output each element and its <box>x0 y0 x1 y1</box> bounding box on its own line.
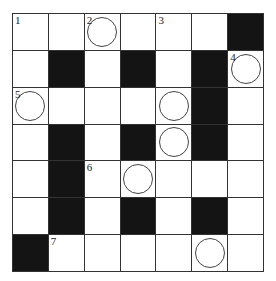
grid-cell[interactable]: 7 <box>49 235 84 271</box>
black-square <box>121 198 156 234</box>
grid-cell[interactable] <box>156 161 191 197</box>
clue-number: 4 <box>230 51 236 63</box>
clue-number: 1 <box>15 14 21 26</box>
grid-cell[interactable] <box>13 198 48 234</box>
grid-cell[interactable]: 3 <box>156 14 191 50</box>
grid-cell[interactable] <box>192 14 227 50</box>
grid-cell[interactable] <box>228 198 263 234</box>
grid-cell[interactable] <box>156 88 191 124</box>
grid-cell[interactable] <box>85 198 120 234</box>
black-square <box>192 51 227 87</box>
grid-cell[interactable] <box>121 161 156 197</box>
grid-cell[interactable]: 4 <box>228 51 263 87</box>
grid-cell[interactable]: 2 <box>85 14 120 50</box>
grid-cell[interactable] <box>228 88 263 124</box>
grid-cell[interactable] <box>192 235 227 271</box>
black-square <box>49 161 84 197</box>
grid-cell[interactable] <box>85 88 120 124</box>
circle-icon <box>159 127 189 157</box>
grid-cell[interactable] <box>121 88 156 124</box>
circle-icon <box>123 164 153 194</box>
crossword-grid: 1234567 <box>12 13 264 272</box>
clue-number: 6 <box>87 161 93 173</box>
grid-cell[interactable] <box>192 161 227 197</box>
grid-cell[interactable] <box>156 125 191 161</box>
black-square <box>13 235 48 271</box>
grid-cell[interactable] <box>13 161 48 197</box>
black-square <box>192 88 227 124</box>
grid-cell[interactable] <box>13 125 48 161</box>
black-square <box>192 125 227 161</box>
clue-number: 2 <box>87 14 93 26</box>
black-square <box>49 125 84 161</box>
black-square <box>121 125 156 161</box>
grid-cell[interactable] <box>121 14 156 50</box>
grid-cell[interactable] <box>228 125 263 161</box>
clue-number: 5 <box>15 88 21 100</box>
grid-cell[interactable]: 6 <box>85 161 120 197</box>
clue-number: 3 <box>158 14 164 26</box>
circle-icon <box>159 91 189 121</box>
black-square <box>49 198 84 234</box>
black-square <box>121 51 156 87</box>
grid-cell[interactable]: 5 <box>13 88 48 124</box>
black-square <box>192 198 227 234</box>
grid-cell[interactable] <box>156 51 191 87</box>
grid-cell[interactable] <box>156 198 191 234</box>
grid-cell[interactable] <box>85 51 120 87</box>
grid-cell[interactable] <box>156 235 191 271</box>
grid-cell[interactable] <box>121 235 156 271</box>
circle-icon <box>195 238 225 268</box>
grid-cell[interactable] <box>228 235 263 271</box>
grid-cell[interactable] <box>49 88 84 124</box>
grid-cell[interactable] <box>49 14 84 50</box>
grid-cell[interactable] <box>13 51 48 87</box>
grid-cell[interactable]: 1 <box>13 14 48 50</box>
black-square <box>228 14 263 50</box>
grid-cell[interactable] <box>85 125 120 161</box>
clue-number: 7 <box>51 235 57 247</box>
grid-cell[interactable] <box>85 235 120 271</box>
grid-cell[interactable] <box>228 161 263 197</box>
black-square <box>49 51 84 87</box>
